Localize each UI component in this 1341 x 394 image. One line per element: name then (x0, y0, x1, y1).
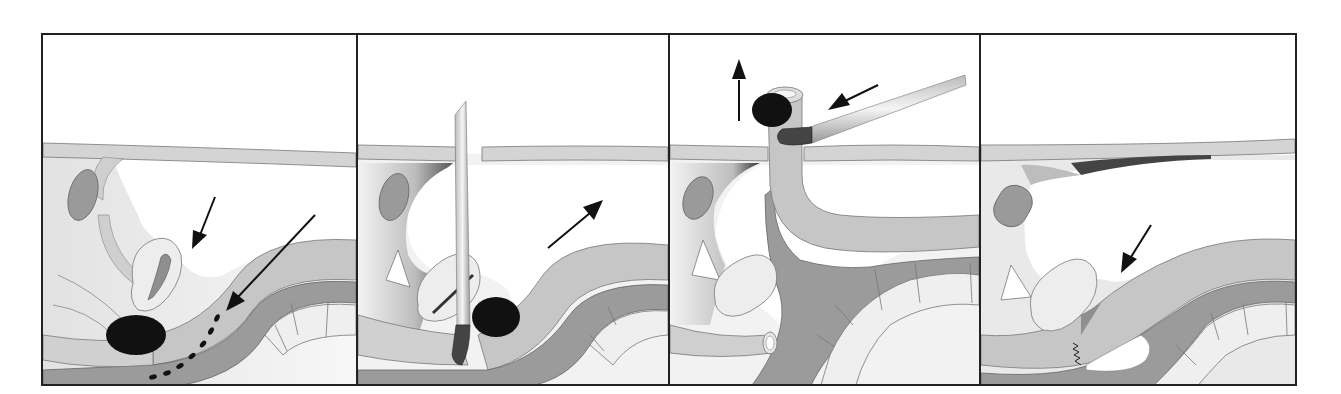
mass (106, 315, 166, 355)
panel-3 (670, 35, 979, 384)
abdominal-wall (670, 145, 768, 161)
panel-4 (981, 35, 1295, 384)
panel-2-illustration (358, 35, 668, 384)
abdominal-wall (358, 145, 456, 161)
panel-4-illustration (981, 35, 1295, 384)
panel-3-illustration (670, 35, 979, 384)
figure-frame (41, 33, 1297, 386)
mass (752, 93, 792, 127)
mass (472, 297, 520, 337)
arrow-icon (732, 59, 746, 121)
instrument-rod (777, 75, 966, 145)
panel-2 (358, 35, 668, 384)
arrow-icon (828, 85, 878, 110)
panel-1-illustration (43, 35, 356, 384)
panel-1 (43, 35, 356, 384)
